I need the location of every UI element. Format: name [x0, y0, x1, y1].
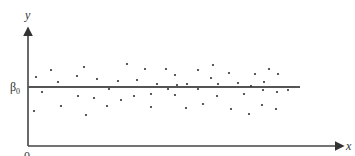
data-point: [228, 72, 230, 74]
data-point: [126, 63, 128, 65]
data-point: [230, 108, 232, 110]
data-point: [216, 95, 218, 97]
data-point: [41, 91, 43, 93]
data-point: [33, 110, 35, 112]
data-point: [287, 89, 289, 91]
data-point: [197, 69, 199, 71]
data-points: [33, 63, 289, 116]
data-point: [165, 68, 167, 70]
data-point: [120, 99, 122, 101]
data-point: [263, 81, 265, 83]
data-point: [106, 105, 108, 107]
data-point: [76, 75, 78, 77]
data-point: [176, 84, 178, 86]
data-point: [243, 93, 245, 95]
data-point: [275, 108, 277, 110]
data-point: [93, 97, 95, 99]
data-point: [254, 73, 256, 75]
scatter-chart: y x 0 β0: [0, 0, 355, 156]
data-point: [77, 95, 79, 97]
data-point: [35, 76, 37, 78]
data-point: [144, 68, 146, 70]
data-point: [150, 106, 152, 108]
data-point: [237, 82, 239, 84]
data-point: [150, 93, 152, 95]
data-point: [186, 83, 188, 85]
data-point: [167, 88, 169, 90]
data-point: [268, 68, 270, 70]
data-point: [60, 105, 62, 107]
data-point: [210, 77, 212, 79]
data-point: [174, 74, 176, 76]
data-point: [250, 85, 252, 87]
data-point: [261, 104, 263, 106]
data-point: [212, 64, 214, 66]
data-point: [276, 91, 278, 93]
data-point: [96, 78, 98, 80]
origin-label: 0: [24, 149, 30, 156]
data-point: [85, 114, 87, 116]
data-point: [277, 73, 279, 75]
y-axis-label: y: [24, 8, 31, 22]
data-point: [156, 83, 158, 85]
data-point: [50, 69, 52, 71]
data-point: [83, 66, 85, 68]
data-point: [117, 80, 119, 82]
data-point: [262, 89, 264, 91]
data-point: [108, 88, 110, 90]
data-point: [248, 113, 250, 115]
data-point: [197, 88, 199, 90]
x-axis-label: x: [345, 139, 352, 153]
data-point: [185, 107, 187, 109]
beta0-label: β0: [10, 80, 20, 96]
data-point: [202, 103, 204, 105]
data-point: [136, 79, 138, 81]
data-point: [133, 95, 135, 97]
data-point: [217, 83, 219, 85]
data-point: [57, 81, 59, 83]
data-point: [174, 94, 176, 96]
